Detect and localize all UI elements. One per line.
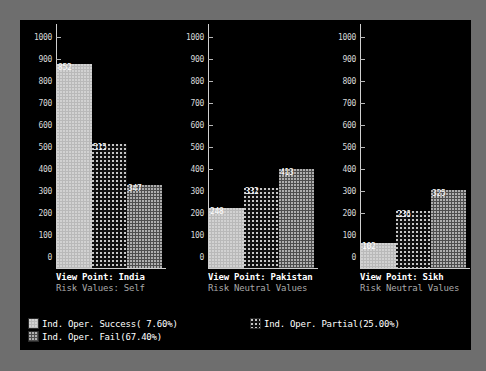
y-tick-label: 700	[342, 100, 356, 108]
panel-caption-line1: View Point: Sikh	[360, 272, 459, 283]
panel-caption-line2: Risk Neutral Values	[208, 283, 312, 294]
legend-swatch-fail-icon	[28, 331, 39, 342]
y-tick-label: 600	[190, 122, 204, 130]
panel-caption-line1: View Point: Pakistan	[208, 272, 312, 283]
y-tick-label: 1000	[186, 34, 204, 42]
y-tick-label: 200	[342, 210, 356, 218]
bar-partial: 332	[244, 188, 279, 268]
y-tick-label: 900	[190, 56, 204, 64]
x-axis-line	[360, 268, 470, 269]
bar-value-label: 413	[280, 168, 294, 177]
bar-success: 102	[361, 243, 396, 268]
legend-row: Ind. Oper. Success( 7.60%) Ind. Oper. Pa…	[28, 318, 468, 331]
y-tick-label: 500	[342, 144, 356, 152]
y-tick-label: 700	[190, 100, 204, 108]
legend-row: Ind. Oper. Fail(67.40%)	[28, 331, 468, 344]
y-tick-label: 1000	[34, 34, 52, 42]
legend-label: Ind. Oper. Partial(25.00%)	[264, 319, 400, 329]
y-tick-label: 400	[190, 166, 204, 174]
y-tick-label: 100	[190, 232, 204, 240]
bars-india: 852 515 347	[56, 28, 166, 268]
y-tick-label: 0	[199, 254, 204, 262]
bar-value-label: 325	[432, 189, 446, 198]
y-tick-label: 300	[342, 188, 356, 196]
bar-success: 852	[57, 64, 92, 268]
legend-item-partial[interactable]: Ind. Oper. Partial(25.00%)	[250, 318, 400, 329]
chart-panel-india: 1000 900 800 700 600 500 400 300 200 100…	[20, 20, 168, 350]
y-tick-label: 900	[342, 56, 356, 64]
y-tick-label: 300	[38, 188, 52, 196]
y-tick-label: 500	[190, 144, 204, 152]
legend-item-success[interactable]: Ind. Oper. Success( 7.60%)	[28, 318, 178, 329]
chart-window: 1000 900 800 700 600 500 400 300 200 100…	[0, 0, 486, 371]
y-tick-label: 800	[190, 78, 204, 86]
chart-panel-sikh: 1000 900 800 700 600 500 400 300 200 100…	[324, 20, 472, 350]
legend-swatch-partial-icon	[250, 318, 261, 329]
y-tick-label: 0	[47, 254, 52, 262]
bar-fail: 413	[279, 169, 314, 268]
bar-fail: 347	[127, 185, 162, 268]
bar-value-label: 248	[210, 207, 224, 216]
legend-label: Ind. Oper. Success( 7.60%)	[42, 319, 178, 329]
y-axis-sikh: 1000 900 800 700 600 500 400 300 200 100…	[324, 20, 358, 268]
y-axis-india: 1000 900 800 700 600 500 400 300 200 100…	[20, 20, 54, 268]
bar-value-label: 347	[128, 184, 142, 193]
bar-value-label: 332	[245, 187, 259, 196]
y-tick-label: 600	[342, 122, 356, 130]
x-axis-line	[56, 268, 166, 269]
y-tick-label: 500	[38, 144, 52, 152]
bar-partial: 515	[92, 144, 127, 268]
bar-success: 248	[209, 208, 244, 268]
y-tick-label: 300	[190, 188, 204, 196]
panel-caption-line2: Risk Values: Self	[56, 283, 145, 294]
bar-value-label: 515	[93, 143, 107, 152]
y-tick-label: 600	[38, 122, 52, 130]
bar-value-label: 236	[397, 210, 411, 219]
y-tick-label: 200	[38, 210, 52, 218]
y-tick-label: 400	[342, 166, 356, 174]
plot-canvas: 1000 900 800 700 600 500 400 300 200 100…	[20, 20, 471, 350]
legend-item-fail[interactable]: Ind. Oper. Fail(67.40%)	[28, 331, 162, 342]
y-tick-label: 100	[342, 232, 356, 240]
y-tick-label: 700	[38, 100, 52, 108]
y-tick-label: 900	[38, 56, 52, 64]
panel-caption-india: View Point: India Risk Values: Self	[56, 272, 145, 294]
panel-caption-pakistan: View Point: Pakistan Risk Neutral Values	[208, 272, 312, 294]
bar-value-label: 852	[58, 63, 72, 72]
chart-legend: Ind. Oper. Success( 7.60%) Ind. Oper. Pa…	[28, 318, 468, 344]
legend-label: Ind. Oper. Fail(67.40%)	[42, 332, 162, 342]
y-tick-label: 400	[38, 166, 52, 174]
y-tick-label: 800	[38, 78, 52, 86]
x-axis-line	[208, 268, 318, 269]
y-tick-label: 0	[351, 254, 356, 262]
y-tick-label: 200	[190, 210, 204, 218]
y-axis-pakistan: 1000 900 800 700 600 500 400 300 200 100…	[172, 20, 206, 268]
bar-value-label: 102	[362, 242, 376, 251]
y-tick-label: 800	[342, 78, 356, 86]
panel-caption-line2: Risk Neutral Values	[360, 283, 459, 294]
panel-caption-line1: View Point: India	[56, 272, 145, 283]
y-tick-label: 100	[38, 232, 52, 240]
chart-panel-pakistan: 1000 900 800 700 600 500 400 300 200 100…	[172, 20, 320, 350]
bar-partial: 236	[396, 211, 431, 268]
y-tick-label: 1000	[338, 34, 356, 42]
bars-sikh: 102 236 325	[360, 28, 470, 268]
panel-caption-sikh: View Point: Sikh Risk Neutral Values	[360, 272, 459, 294]
bars-pakistan: 248 332 413	[208, 28, 318, 268]
legend-swatch-success-icon	[28, 318, 39, 329]
bar-fail: 325	[431, 190, 466, 268]
